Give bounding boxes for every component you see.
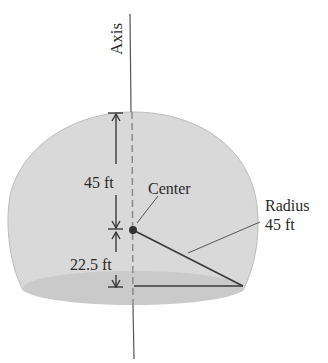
radius-title-label: Radius [265,197,309,214]
center-label: Center [148,180,191,197]
top-dimension-label: 45 ft [84,174,114,191]
axis-line-top [130,14,131,112]
dome-diagram: Axis 45 ft 22.5 ft Center Radius 45 ft [0,0,328,363]
axis-label: Axis [107,23,126,55]
center-point [129,226,137,234]
axis-line-bottom [133,305,134,359]
bottom-dimension-label: 22.5 ft [70,256,112,273]
radius-value-label: 45 ft [265,216,295,233]
